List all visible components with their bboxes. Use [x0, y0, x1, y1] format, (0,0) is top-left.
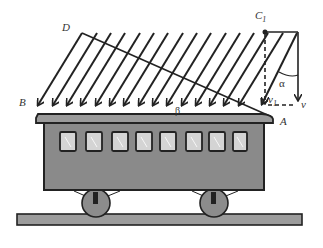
label-v: v: [301, 99, 306, 110]
label-C1: C1: [255, 10, 266, 24]
label-v1: v1: [268, 94, 277, 108]
label-D: D: [62, 22, 70, 33]
rail: [17, 214, 302, 225]
train-body: [44, 122, 264, 190]
wheels: [74, 189, 238, 217]
label-alpha: α: [279, 78, 285, 89]
label-B: B: [19, 97, 26, 108]
rain-lines: [38, 33, 297, 105]
diagram-canvas: [0, 0, 323, 248]
label-A: A: [280, 116, 287, 127]
label-beta: β: [175, 106, 180, 116]
train-roof: [36, 114, 273, 123]
rain-train-diagram: D B C1 A α β v1 v: [0, 0, 323, 248]
